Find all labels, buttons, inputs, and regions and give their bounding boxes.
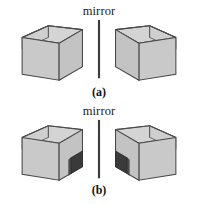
panel-label-b: (b) <box>0 184 198 197</box>
box-b-left-dark-patch-edge <box>69 158 71 176</box>
figure-root: mirror <box>0 0 198 204</box>
panel-a: mirror <box>0 0 198 108</box>
box-a-left-front-face <box>22 37 59 80</box>
box-a-left <box>22 26 82 80</box>
panel-b: mirror <box>0 100 198 204</box>
box-a-right-front-face <box>139 37 176 80</box>
box-b-left <box>22 126 82 180</box>
scene-b <box>0 116 198 188</box>
box-b-right <box>116 126 176 180</box>
box-a-right <box>116 26 176 80</box>
scene-a <box>0 16 198 88</box>
box-b-right-dark-patch-edge <box>127 158 129 176</box>
box-b-left-front-face <box>22 137 59 180</box>
panel-label-a: (a) <box>0 86 198 99</box>
box-b-right-front-face <box>139 137 176 180</box>
